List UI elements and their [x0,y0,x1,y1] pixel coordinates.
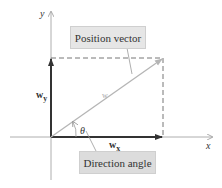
position-vector-callout: Position vector [70,26,146,49]
vector-diagram: y x w θ wy wx Position vector Direction … [0,0,222,188]
x-axis-label: x [205,140,211,151]
y-axis-label: y [39,8,45,19]
direction-callout-leader [86,131,96,151]
direction-angle-callout: Direction angle [79,151,156,174]
theta-label: θ [80,125,85,136]
angle-arc [73,122,76,137]
position-callout-leader [127,48,132,74]
wy-label: wy [36,89,47,103]
vector-w-label: w [102,91,108,100]
